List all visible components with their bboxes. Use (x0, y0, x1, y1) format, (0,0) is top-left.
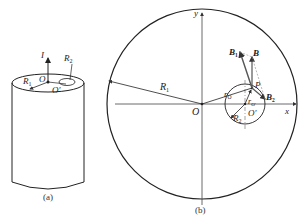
r2-leader (70, 64, 72, 80)
figure-b-cross-section: x y R1 rO rO' R2 O O' P B1 B B2 (107, 8, 297, 215)
label-r2-b: R2 (232, 113, 242, 124)
caption-b: (b) (195, 205, 206, 215)
label-r1-b: R1 (159, 81, 169, 93)
label-point-p: P (254, 80, 261, 90)
label-origin-b: O (192, 106, 199, 117)
figure-a-cylinder: I R2 R1 O O' (a) (12, 50, 84, 202)
offset-line (48, 82, 66, 84)
diagram-canvas: I R2 R1 O O' (a) x y R1 rO rO' R2 O O' (0, 0, 305, 215)
caption-a: (a) (43, 192, 53, 202)
label-x-axis: x (284, 106, 289, 116)
label-r-o-prime: rO' (248, 97, 256, 107)
helper-dashed-2 (252, 57, 265, 99)
cylinder-bottom-arc (12, 182, 84, 189)
r1-radius-line (109, 81, 202, 104)
label-current: I (40, 50, 45, 60)
label-b: B (252, 48, 259, 58)
label-hole-center-a: O' (52, 85, 61, 95)
label-r2-a: R2 (63, 53, 73, 64)
hole-ellipse (59, 79, 75, 86)
label-y-axis: y (193, 8, 198, 18)
label-r1-a: R1 (22, 76, 32, 87)
label-hole-center-b: O' (248, 108, 257, 118)
vector-b1 (240, 52, 252, 88)
label-b1: B1 (228, 47, 238, 58)
label-center-a: O (39, 74, 46, 84)
label-b2: B2 (265, 92, 275, 103)
